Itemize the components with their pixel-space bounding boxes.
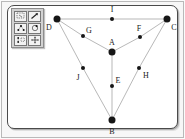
tool-palette[interactable] [11,8,44,48]
graph-node-label-h: H [143,72,149,80]
graph-node-label-b: B [109,128,114,136]
move-tool-button[interactable] [28,35,41,46]
add-node-tool-button[interactable] [14,23,27,34]
tool-palette-row [14,22,42,34]
zoom-arrow-icon [30,12,40,20]
graph-node-c[interactable] [164,16,171,23]
graph-node-b[interactable] [109,117,116,124]
graph-node-label-e: E [116,77,121,85]
graph-node-label-a: A [109,39,115,47]
edit-node-icon [16,36,26,44]
graph-node-i[interactable] [110,17,114,21]
graph-node-label-g: G [86,27,92,35]
edit-node-tool-button[interactable] [14,35,27,46]
graph-node-h[interactable] [137,66,141,70]
select-region-tool-button[interactable] [14,11,27,22]
graph-node-j[interactable] [81,66,85,70]
graph-node-a[interactable] [109,49,116,56]
tool-palette-row [14,10,42,22]
zoom-tool-button[interactable] [28,11,41,22]
application-window: DICGFAJHEB [0,0,185,139]
move-arrows-icon [30,36,40,44]
add-node-icon [16,24,26,32]
graph-node-f[interactable] [138,35,142,39]
graph-node-label-i: I [111,6,114,14]
graph-node-label-j: J [76,74,79,82]
graph-node-label-f: F [137,25,141,33]
graph-node-label-c: C [171,24,176,32]
circle-layout-tool-button[interactable] [28,23,41,34]
graph-node-g[interactable] [81,34,85,38]
graph-node-d[interactable] [54,16,61,23]
lasso-select-icon [16,12,26,20]
circle-layout-icon [30,24,40,32]
graph-node-e[interactable] [110,84,114,88]
tool-palette-row [14,34,42,46]
graph-node-label-d: D [46,24,52,32]
